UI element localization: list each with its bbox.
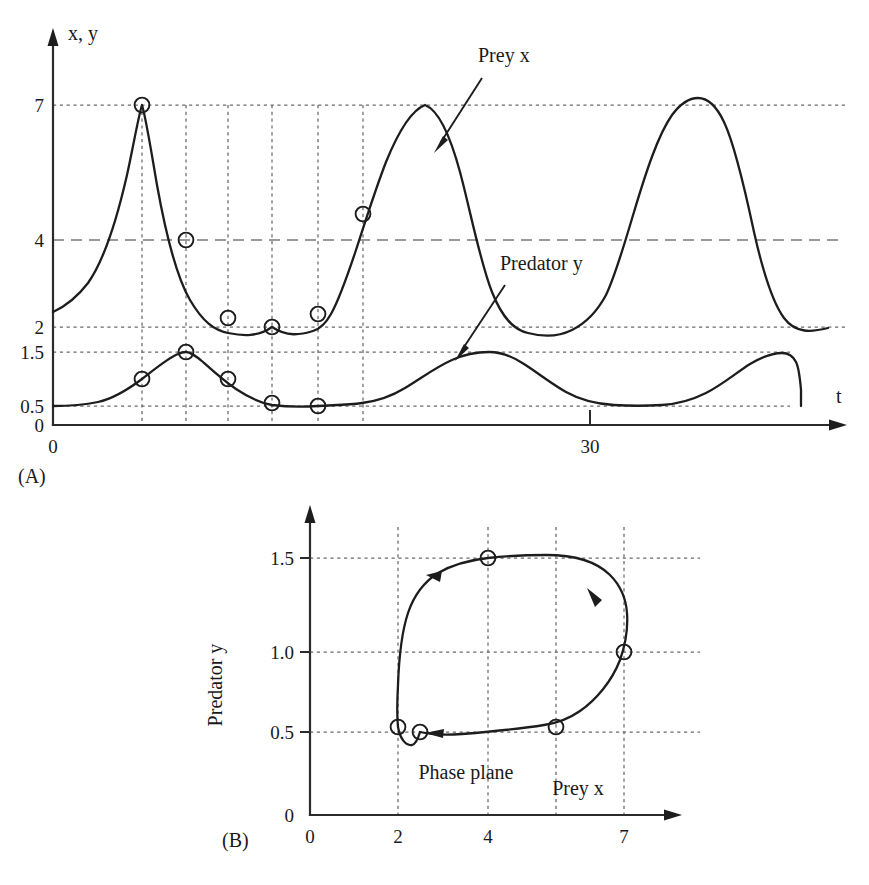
panel-b-x-axis-arrowhead <box>664 810 682 821</box>
predator-curve <box>53 352 801 407</box>
prey-annotation-arrowhead <box>434 136 448 153</box>
marker-x6-y0p56 <box>549 720 564 735</box>
panel-b-ytick-0p5: 0.5 <box>270 722 294 743</box>
panel-a-ytick-7: 7 <box>35 95 45 116</box>
prey-markers <box>135 98 371 335</box>
panel-b-ytick-0: 0 <box>285 805 295 826</box>
phase-plane-annotation-label: Phase plane <box>419 761 514 784</box>
y-axis-arrowhead <box>48 28 59 46</box>
marker-x2-y0p56 <box>391 720 406 735</box>
marker-x2p5-y0p5 <box>413 725 428 740</box>
panel-a-y-axis <box>48 28 59 425</box>
phase-plane-orbit <box>397 555 627 745</box>
panel-a-xtick-0: 0 <box>48 436 58 457</box>
panel-a-ytick-2: 2 <box>35 317 45 338</box>
prey-curve <box>53 98 828 336</box>
panel-a-xtick-30: 30 <box>581 436 600 457</box>
panel-a-x-axis-name: t <box>836 385 842 407</box>
panel-b-y-axis-arrowhead <box>305 505 316 523</box>
panel-a-label: (A) <box>18 465 46 488</box>
panel-b-label: (B) <box>222 829 249 852</box>
panel-b-y-axis-name: Predator y <box>204 644 227 727</box>
panel-a-ytick-0: 0 <box>35 415 45 436</box>
panel-b-chart: 1.5 1.0 0.5 0 0 2 4 7 Predator y Prey x … <box>0 495 869 885</box>
figure-root: Prey x Predator y 7 4 2 1.5 0.5 0 0 30 x… <box>0 0 869 885</box>
x-axis-arrowhead <box>829 420 847 431</box>
panel-a-ytick-1p5: 1.5 <box>20 342 44 363</box>
panel-b-ytick-1p0: 1.0 <box>270 642 294 663</box>
panel-b-xtick-7: 7 <box>619 826 629 847</box>
panel-a-ytick-4: 4 <box>35 230 45 251</box>
predator-annotation-label: Predator y <box>500 252 583 275</box>
predator-markers <box>135 345 326 414</box>
panel-b-ytick-1p5: 1.5 <box>270 548 294 569</box>
marker-x4-y1p5 <box>481 551 496 566</box>
panel-a-chart: Prey x Predator y 7 4 2 1.5 0.5 0 0 30 x… <box>0 0 869 500</box>
predator-annotation: Predator y <box>455 252 583 361</box>
panel-b-xtick-0: 0 <box>305 826 315 847</box>
panel-a-ytick-0p5: 0.5 <box>20 396 44 417</box>
arrowhead-upper-right <box>587 588 602 607</box>
panel-b-xtick-2: 2 <box>393 826 403 847</box>
prey-annotation-label: Prey x <box>478 44 530 67</box>
marker-x7-y1p0 <box>617 645 632 660</box>
panel-a-y-axis-name: x, y <box>68 22 98 45</box>
panel-b-x-axis <box>310 810 682 821</box>
panel-a-x-axis <box>53 410 847 431</box>
panel-b-y-axis <box>300 505 316 815</box>
panel-b-xtick-4: 4 <box>483 826 493 847</box>
phase-plane-markers <box>391 551 632 740</box>
panel-b-x-axis-name: Prey x <box>552 777 604 800</box>
